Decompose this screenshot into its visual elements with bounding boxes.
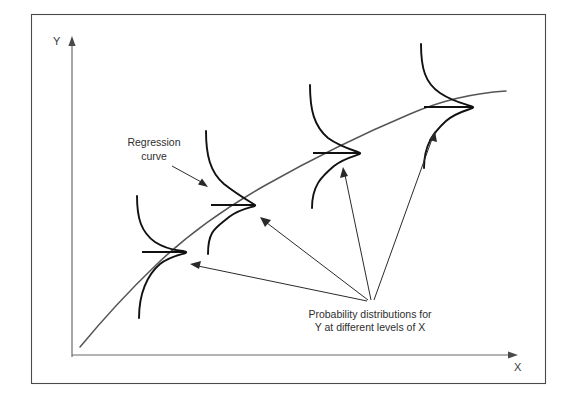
x-axis-label: X <box>514 361 522 373</box>
y-axis-label: Y <box>53 35 61 47</box>
figure-frame <box>32 15 546 384</box>
regression-label-line-1: Regression <box>127 136 180 148</box>
figure-canvas: Y X Regress <box>0 0 570 401</box>
distributions-label-line-1: Probability distributions for <box>308 308 432 320</box>
distributions-label-line-2: Y at different levels of X <box>315 321 426 333</box>
regression-label-line-2: curve <box>141 150 167 162</box>
regression-figure: Y X Regress <box>0 0 570 401</box>
